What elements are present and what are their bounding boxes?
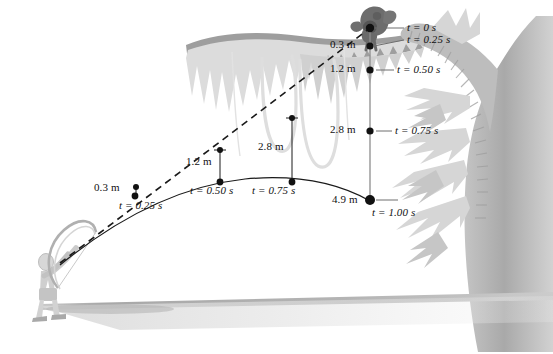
label-drop-2-8m: 2.8 m [330, 123, 356, 135]
label-t-0s: t = 0 s [407, 21, 436, 33]
drop-bracket-1-2m [214, 150, 226, 182]
aim-line-points [133, 115, 295, 190]
drop-bracket-2-8m [286, 118, 298, 182]
label-bracket-1-2m: 1.2 m [186, 155, 212, 167]
label-path-t-075s: t = 0.75 s [252, 184, 295, 196]
label-t-075s-fall: t = 0.75 s [395, 124, 438, 136]
aim-line [60, 28, 370, 263]
label-path-t-050s: t = 0.50 s [190, 184, 233, 196]
label-path-t-025s: t = 0.25 s [119, 199, 162, 211]
label-t-100s: t = 1.00 s [372, 206, 415, 218]
label-t-050s: t = 0.50 s [397, 63, 440, 75]
label-drop-1-2m: 1.2 m [330, 62, 356, 74]
label-bracket-2-8m: 2.8 m [258, 140, 284, 152]
leader-lines [374, 28, 404, 200]
figure-canvas: t = 0 s t = 0.25 s t = 0.50 s t = 0.75 s… [0, 0, 553, 354]
physics-overlay [0, 0, 553, 354]
label-drop-4-9m: 4.9 m [332, 193, 358, 205]
label-drop-0-3m: 0.3 m [330, 38, 356, 50]
label-t-025s: t = 0.25 s [407, 33, 450, 45]
label-path-drop-0-3m: 0.3 m [94, 181, 120, 193]
